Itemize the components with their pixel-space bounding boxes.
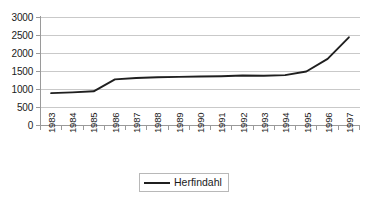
x-axis-tick-label: 1988 — [153, 113, 163, 133]
x-axis-tick-label: 1993 — [260, 113, 270, 133]
legend-label-herfindahl: Herfindahl — [174, 177, 222, 188]
x-axis-tick-label: 1990 — [196, 113, 206, 133]
x-axis-tick-label: 1992 — [239, 113, 249, 133]
data-series-herfindahl — [51, 37, 349, 93]
x-axis-tick-label: 1996 — [324, 113, 334, 133]
chart-legend: Herfindahl — [139, 173, 229, 192]
chart-container: 3000 2500 2000 1500 1000 500 0 — [0, 0, 368, 204]
x-axis-tick-label: 1985 — [89, 113, 99, 133]
x-axis-tick-label: 1994 — [281, 113, 291, 133]
gridlines — [41, 18, 360, 108]
legend-line-swatch-herfindahl — [144, 182, 170, 184]
x-axis-tick-label: 1997 — [345, 113, 355, 133]
x-axis-tick-label: 1984 — [68, 113, 78, 133]
x-axis-tick-label: 1995 — [303, 113, 313, 133]
x-axis-tick-label: 1987 — [132, 113, 142, 133]
x-axis-tick-label: 1983 — [47, 113, 57, 133]
x-axis-tick-label: 1986 — [111, 113, 121, 133]
x-axis-tick-label: 1991 — [217, 113, 227, 133]
y-axis-ticks — [36, 18, 41, 126]
x-axis-tick-label: 1989 — [175, 113, 185, 133]
